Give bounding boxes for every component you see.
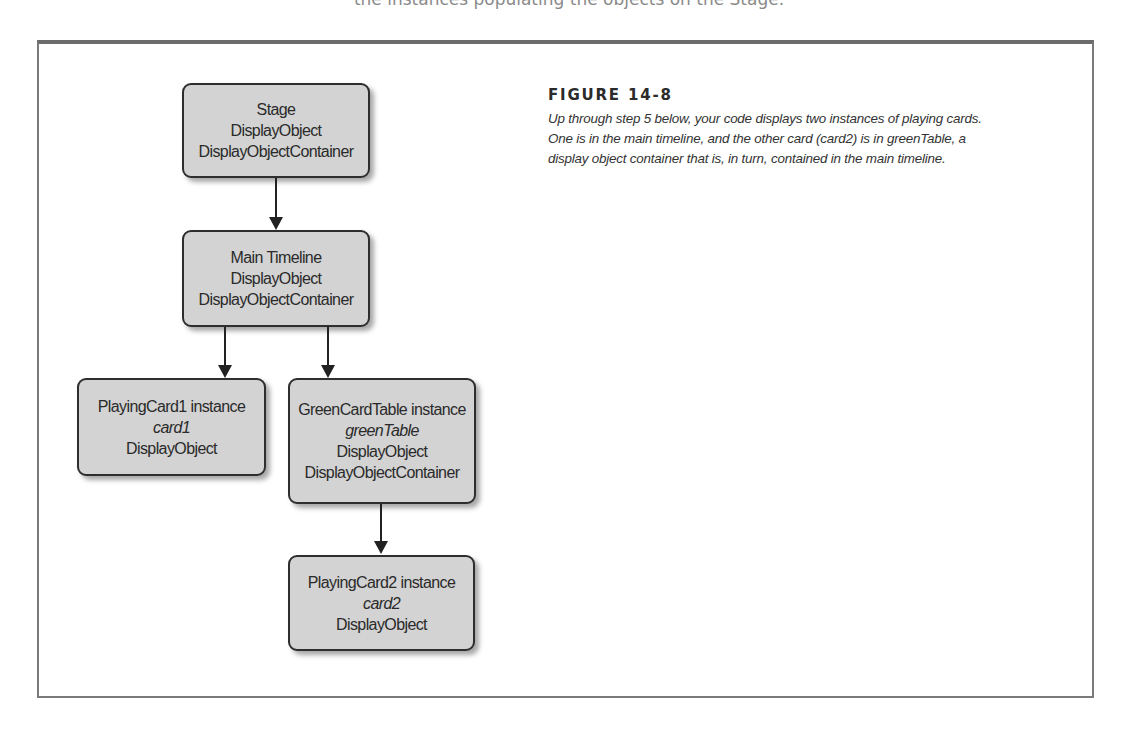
arrowhead-down-icon xyxy=(218,365,232,378)
node-playing-card2-type: DisplayObject xyxy=(336,614,427,635)
node-stage: Stage DisplayObject DisplayObjectContain… xyxy=(182,83,370,178)
node-main-timeline-title: Main Timeline xyxy=(231,247,322,268)
node-main-timeline: Main Timeline DisplayObject DisplayObjec… xyxy=(182,230,370,327)
node-playing-card2-title: PlayingCard2 instance xyxy=(308,572,456,593)
node-green-card-table: GreenCardTable instance greenTable Displ… xyxy=(288,378,476,504)
node-stage-type2: DisplayObjectContainer xyxy=(199,141,354,162)
node-playing-card1-title: PlayingCard1 instance xyxy=(98,396,246,417)
node-green-card-table-type2: DisplayObjectContainer xyxy=(305,462,460,483)
node-playing-card2: PlayingCard2 instance card2 DisplayObjec… xyxy=(288,555,475,651)
caption-line: One is in the main timeline, and the oth… xyxy=(548,129,1058,149)
node-main-timeline-type1: DisplayObject xyxy=(231,268,322,289)
node-playing-card2-instance: card2 xyxy=(363,593,400,614)
edge-greentable-to-card2-line xyxy=(380,504,382,542)
node-stage-type1: DisplayObject xyxy=(231,120,322,141)
arrowhead-down-icon xyxy=(374,541,388,554)
node-green-card-table-title: GreenCardTable instance xyxy=(298,399,466,420)
node-playing-card1-type: DisplayObject xyxy=(126,438,217,459)
figure-caption: Up through step 5 below, your code displ… xyxy=(548,109,1058,169)
node-playing-card1: PlayingCard1 instance card1 DisplayObjec… xyxy=(77,378,266,476)
caption-line: display object container that is, in tur… xyxy=(548,149,1058,169)
arrowhead-down-icon xyxy=(269,217,283,230)
figure-label: FIGURE 14-8 xyxy=(548,86,673,104)
node-green-card-table-instance: greenTable xyxy=(345,420,418,441)
node-playing-card1-instance: card1 xyxy=(153,417,190,438)
edge-main-to-card1-line xyxy=(224,327,226,367)
caption-line: Up through step 5 below, your code displ… xyxy=(548,109,1058,129)
node-green-card-table-type1: DisplayObject xyxy=(337,441,428,462)
node-main-timeline-type2: DisplayObjectContainer xyxy=(199,289,354,310)
cut-off-body-text: the instances populating the objects on … xyxy=(0,0,1138,9)
edge-stage-to-main-line xyxy=(275,178,277,218)
edge-main-to-greentable-line xyxy=(327,327,329,367)
arrowhead-down-icon xyxy=(321,365,335,378)
node-stage-title: Stage xyxy=(257,99,296,120)
